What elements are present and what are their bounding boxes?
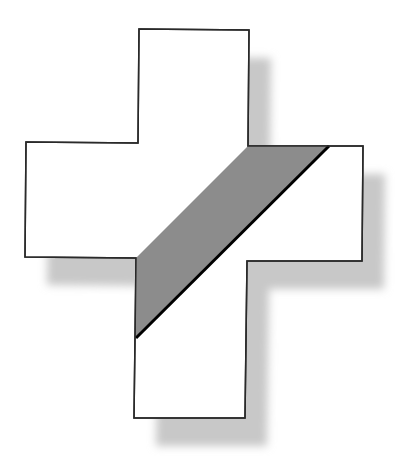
cross-diagram (0, 0, 395, 467)
diagram-canvas (0, 0, 395, 467)
